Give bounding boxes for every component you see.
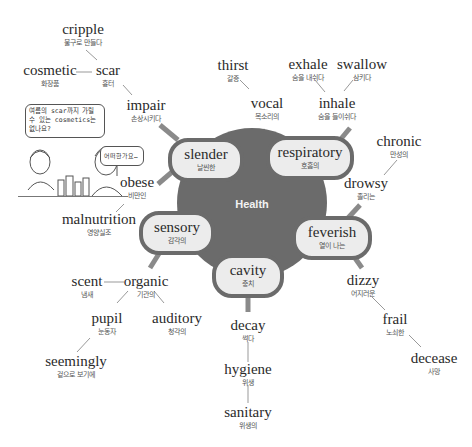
- speech-bubble-answer: 어떠한가요…: [100, 146, 144, 166]
- word-ko: 졸리는: [344, 194, 388, 201]
- word-en: impair: [126, 98, 165, 113]
- node-feverish-ko: 열이 나는: [296, 243, 368, 250]
- center-label: Health: [235, 198, 269, 210]
- word-en: thirst: [218, 58, 249, 73]
- word-ko: 목소리의: [251, 114, 283, 121]
- word-auditory: auditory 청각의: [152, 311, 202, 336]
- word-en: scar: [96, 63, 120, 78]
- word-ko: 썩다: [231, 336, 266, 343]
- word-ko: 위생의: [224, 423, 271, 430]
- word-decay: decay 썩다: [231, 318, 266, 343]
- word-ko: 영양실조: [62, 230, 136, 237]
- word-ko: 청각의: [152, 329, 202, 336]
- word-ko: 노쇠한: [383, 330, 408, 337]
- word-organic: organic 기관의: [124, 274, 169, 299]
- word-sanitary: sanitary 위생의: [224, 405, 271, 430]
- word-ko: 냄새: [72, 292, 103, 299]
- word-ko: 흉터: [96, 81, 120, 88]
- word-en: inhale: [318, 96, 356, 111]
- word-decease: decease 사망: [411, 351, 458, 376]
- word-vocal: vocal 목소리의: [251, 96, 283, 121]
- word-en: auditory: [152, 311, 202, 326]
- word-dizzy: dizzy 어지러운: [347, 273, 379, 298]
- node-sensory[interactable]: sensory 감각의: [139, 211, 215, 255]
- word-en: scent: [72, 274, 103, 289]
- node-sensory-en: sensory: [143, 220, 211, 235]
- word-en: cosmetic: [23, 63, 76, 78]
- word-ko: 화장품: [23, 81, 76, 88]
- node-slender[interactable]: slender 날씬한: [168, 138, 244, 182]
- node-feverish-en: feverish: [296, 225, 368, 240]
- word-en: drowsy: [344, 176, 388, 191]
- word-en: cripple: [62, 22, 104, 37]
- word-en: chronic: [377, 134, 422, 149]
- word-en: dizzy: [347, 273, 379, 288]
- word-ko: 만성의: [377, 152, 422, 159]
- word-seemingly: seemingly 겉으로 보기에: [45, 354, 107, 379]
- node-cavity-en: cavity: [216, 263, 280, 278]
- word-en: decay: [231, 318, 266, 333]
- node-respiratory-ko: 호흡의: [270, 163, 350, 170]
- word-en: exhale: [288, 57, 327, 72]
- word-thirst: thirst 갈증: [218, 58, 249, 83]
- node-feverish[interactable]: feverish 열이 나는: [292, 216, 372, 260]
- word-chronic: chronic 만성의: [377, 134, 422, 159]
- word-pupil: pupil 눈동자: [92, 311, 123, 336]
- word-en: frail: [383, 312, 408, 327]
- word-malnutrition: malnutrition 영양실조: [62, 212, 136, 237]
- word-cripple: cripple 불구로 만들다: [62, 22, 104, 47]
- word-swallow: swallow 삼키다: [337, 57, 387, 82]
- word-ko: 눈동자: [92, 329, 123, 336]
- word-en: vocal: [251, 96, 283, 111]
- word-ko: 숨을 들이쉬다: [318, 114, 356, 121]
- word-ko: 겉으로 보기에: [45, 372, 107, 379]
- word-en: seemingly: [45, 354, 107, 369]
- node-cavity[interactable]: cavity 충치: [212, 254, 284, 298]
- word-en: organic: [124, 274, 169, 289]
- word-ko: 어지러운: [347, 291, 379, 298]
- word-scent: scent 냄새: [72, 274, 103, 299]
- node-sensory-ko: 감각의: [143, 238, 211, 245]
- word-en: sanitary: [224, 405, 271, 420]
- word-ko: 손상시키다: [126, 116, 165, 123]
- word-en: pupil: [92, 311, 123, 326]
- node-slender-ko: 날씬한: [172, 165, 240, 172]
- word-frail: frail 노쇠한: [383, 312, 408, 337]
- word-en: decease: [411, 351, 458, 366]
- node-respiratory[interactable]: respiratory 호흡의: [266, 136, 354, 180]
- word-ko: 사망: [411, 369, 458, 376]
- word-inhale: inhale 숨을 들이쉬다: [318, 96, 356, 121]
- word-scar: scar 흉터: [96, 63, 120, 88]
- node-respiratory-en: respiratory: [270, 145, 350, 160]
- word-drowsy: drowsy 졸리는: [344, 176, 388, 201]
- word-cosmetic: cosmetic 화장품: [23, 63, 76, 88]
- health-mind-map: Health slender 날씬한 respiratory 호흡의 senso…: [0, 0, 472, 447]
- word-exhale: exhale 숨을 내쉬다: [288, 57, 327, 82]
- word-impair: impair 손상시키다: [126, 98, 165, 123]
- word-en: swallow: [337, 57, 387, 72]
- speech-bubble-question: 여름의 scar까지 가릴 수 있는 cosmetics는 없나요?: [25, 104, 105, 138]
- word-ko: 위생: [224, 380, 271, 387]
- node-cavity-ko: 충치: [216, 281, 280, 288]
- word-ko: 삼키다: [337, 75, 387, 82]
- node-slender-en: slender: [172, 147, 240, 162]
- word-ko: 불구로 만들다: [62, 40, 104, 47]
- word-hygiene: hygiene 위생: [224, 362, 271, 387]
- word-ko: 갈증: [218, 76, 249, 83]
- word-en: malnutrition: [62, 212, 136, 227]
- word-en: hygiene: [224, 362, 271, 377]
- word-ko: 기관의: [124, 292, 169, 299]
- word-ko: 숨을 내쉬다: [288, 75, 327, 82]
